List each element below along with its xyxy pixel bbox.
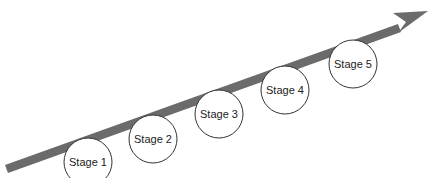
stage-4: Stage 4 xyxy=(261,66,309,114)
stage-diagram: Stage 1 Stage 2 Stage 3 Stage 4 Stage 5 xyxy=(0,0,439,178)
stage-label: Stage 2 xyxy=(134,133,172,145)
stage-5: Stage 5 xyxy=(329,40,377,88)
stage-label: Stage 4 xyxy=(266,84,304,96)
stage-2: Stage 2 xyxy=(129,115,177,163)
stage-3: Stage 3 xyxy=(195,90,243,138)
stage-label: Stage 5 xyxy=(334,58,372,70)
stage-label: Stage 3 xyxy=(200,108,238,120)
stage-label: Stage 1 xyxy=(69,156,107,168)
